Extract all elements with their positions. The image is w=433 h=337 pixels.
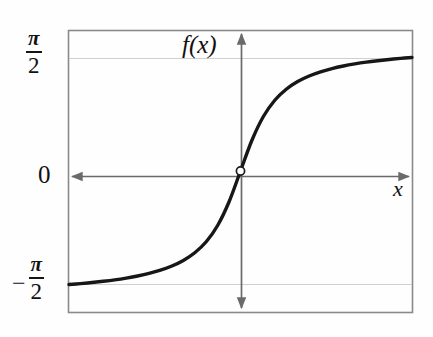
fraction-numerator: π xyxy=(26,28,42,49)
arctan-plot-figure: π 2 0 − π 2 f(x) x xyxy=(0,0,433,337)
y-tick-label-zero: 0 xyxy=(38,162,51,187)
fraction-numerator: π xyxy=(29,254,45,275)
y-tick-label-pi-over-2: π 2 xyxy=(26,28,42,77)
fraction-pi-over-2: π 2 xyxy=(26,28,42,77)
fraction-denominator: 2 xyxy=(29,280,45,303)
fraction-denominator: 2 xyxy=(26,54,42,77)
fraction-pi-over-2: π 2 xyxy=(29,254,45,303)
y-axis-title: f(x) xyxy=(182,32,217,57)
minus-sign: − xyxy=(12,271,26,295)
signed-fraction: − π 2 xyxy=(12,254,44,303)
origin-open-circle-marker xyxy=(236,167,244,175)
x-axis-title: x xyxy=(393,178,403,200)
y-tick-label-negative-pi-over-2: − π 2 xyxy=(12,254,44,303)
